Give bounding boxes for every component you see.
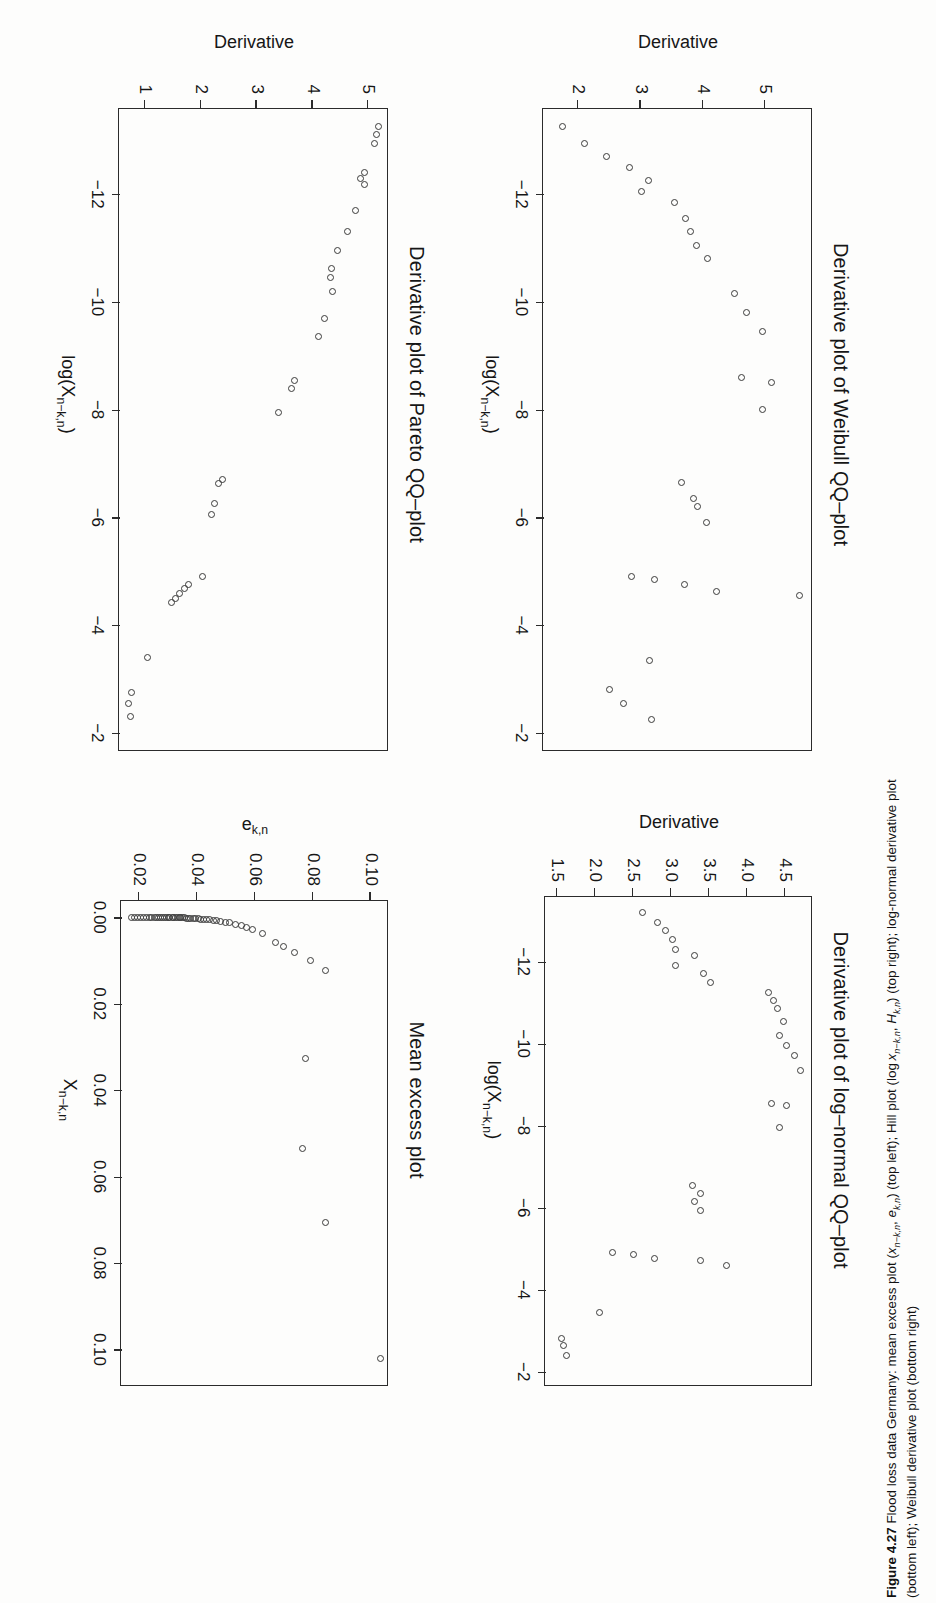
panel-pareto-derivative-plot: Derivative plot of Pareto QQ–plot−12−10−… [44, 22, 432, 767]
x-axis-tick-label: −6 [513, 1198, 533, 1217]
x-axis-tick [114, 1349, 122, 1350]
y-axis-tick-label: 2 [191, 22, 211, 94]
data-point [609, 1249, 616, 1256]
x-axis-tick-label: −10 [511, 287, 531, 316]
x-axis-tick [112, 302, 120, 303]
data-point [703, 519, 710, 526]
plot-frame [120, 900, 388, 1386]
data-point [669, 936, 676, 943]
x-axis-label: log(Xn−k,n) [57, 22, 78, 767]
x-axis-tick-label: −12 [87, 180, 107, 209]
x-axis-tick [538, 1208, 546, 1209]
x-axis-tick-label: −6 [87, 508, 107, 527]
x-axis-tick-label: −2 [87, 723, 107, 742]
y-axis-tick [367, 100, 368, 108]
y-axis-label: Derivative [639, 812, 719, 833]
data-point [232, 921, 239, 928]
x-axis-tick-label: 0.00 [89, 901, 109, 934]
y-axis-label: ek,n [242, 814, 268, 835]
data-point [352, 207, 359, 214]
data-point [776, 1124, 783, 1131]
y-axis-tick-label: 0.08 [303, 800, 323, 886]
data-point [759, 406, 766, 413]
data-point [731, 290, 738, 297]
data-point [322, 967, 329, 974]
y-axis-tick [764, 100, 765, 108]
y-axis-tick-label: 0.10 [361, 800, 381, 886]
plot-frame [544, 896, 812, 1386]
x-axis-label: log(Xn−k,n) [483, 800, 504, 1400]
y-axis-tick-label: 0.02 [129, 800, 149, 886]
x-axis-tick [112, 733, 120, 734]
data-point [723, 1262, 730, 1269]
data-point [563, 1352, 570, 1359]
x-axis-tick-label: 0.10 [89, 1333, 109, 1366]
x-axis-tick-label: −2 [513, 1362, 533, 1381]
y-axis-tick [196, 892, 197, 900]
x-axis-tick [114, 1177, 122, 1178]
figure-caption-line1: Flood loss data Germany: mean excess plo… [884, 779, 899, 1523]
data-point [651, 576, 658, 583]
data-point [796, 592, 803, 599]
data-point [208, 511, 215, 518]
data-point [681, 581, 688, 588]
data-point [697, 1190, 704, 1197]
y-axis-tick [670, 888, 671, 896]
x-axis-tick [536, 302, 544, 303]
data-point [596, 1309, 603, 1316]
data-point [645, 177, 652, 184]
data-point [581, 140, 588, 147]
x-axis-label: Xn−k,n [59, 800, 80, 1400]
y-axis-tick-label: 0.04 [187, 800, 207, 886]
data-point [628, 573, 635, 580]
y-axis-tick-label: 4.5 [775, 800, 795, 882]
data-point [776, 1032, 783, 1039]
x-axis-tick-label: 0.08 [89, 1246, 109, 1279]
data-point [691, 1198, 698, 1205]
panel-lognormal-derivative-plot: Derivative plot of log–normal QQ–plot−12… [468, 800, 856, 1400]
plot-frame [118, 108, 388, 751]
x-axis-tick-label: −2 [511, 723, 531, 742]
data-point [797, 1067, 804, 1074]
data-point [329, 288, 336, 295]
x-axis-tick [538, 1126, 546, 1127]
x-axis-tick [538, 1044, 546, 1045]
x-axis-tick-label: −8 [513, 1116, 533, 1135]
x-axis-tick [538, 1290, 546, 1291]
panel-weibull-derivative-plot: Derivative plot of Weibull QQ–plot−12−10… [468, 22, 856, 767]
y-axis-tick [577, 100, 578, 108]
y-axis-tick-label: 4 [303, 22, 323, 94]
x-axis-tick-label: −6 [511, 508, 531, 527]
x-axis-tick [538, 1372, 546, 1373]
data-point [288, 385, 295, 392]
data-point [377, 1355, 384, 1362]
data-point [259, 930, 266, 937]
data-point [371, 140, 378, 147]
plot-title: Derivative plot of Weibull QQ–plot [829, 22, 852, 767]
y-axis-tick [639, 100, 640, 108]
data-point [626, 164, 633, 171]
y-axis-tick-label: 2.0 [585, 800, 605, 882]
x-axis-tick [112, 194, 120, 195]
x-axis-tick [112, 410, 120, 411]
x-axis-tick-label: −12 [513, 947, 533, 976]
data-point [672, 962, 679, 969]
x-axis-tick [536, 517, 544, 518]
figure-caption-label: Figure 4.27 [884, 1527, 899, 1598]
data-point [361, 181, 368, 188]
data-point [603, 153, 610, 160]
data-point [693, 242, 700, 249]
x-axis-tick-label: −8 [87, 400, 107, 419]
x-axis-tick [536, 733, 544, 734]
figure-caption-line2: (bottom left); Weibull derivative plot (… [904, 1306, 919, 1598]
plot-title: Mean excess plot [405, 800, 428, 1400]
x-axis-tick [536, 410, 544, 411]
figure-caption: Figure 4.27 Flood loss data Germany: mea… [882, 118, 922, 1598]
y-axis-tick [312, 892, 313, 900]
y-axis-tick [708, 888, 709, 896]
y-axis-tick [138, 892, 139, 900]
data-point [321, 315, 328, 322]
data-point [672, 946, 679, 953]
x-axis-tick [114, 1090, 122, 1091]
data-point [639, 909, 646, 916]
